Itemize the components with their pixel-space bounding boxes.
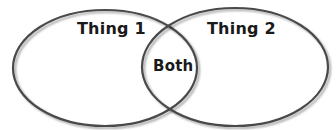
intersection-label: Both (153, 57, 193, 75)
venn-diagram: Thing 1 Thing 2 Both (0, 0, 336, 130)
set-b-label: Thing 2 (207, 19, 276, 38)
set-a-label: Thing 1 (77, 19, 146, 38)
